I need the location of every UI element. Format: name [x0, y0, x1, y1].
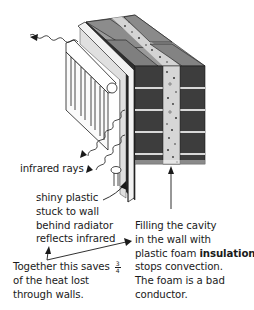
- shiny-line-2: stuck to wall: [36, 205, 115, 219]
- label-together-saves: Together this saves 34 of the heat lost …: [13, 260, 121, 301]
- cavity-line-2: in the wall with: [135, 233, 254, 247]
- cavity-line-3: plastic foam insulation: [135, 247, 254, 261]
- together-line-1-text: Together this saves: [13, 261, 113, 272]
- label-cavity-insulation: Filling the cavity in the wall with plas…: [135, 219, 254, 302]
- together-line-1: Together this saves 34: [13, 260, 121, 274]
- label-infrared-rays: infrared rays: [20, 162, 84, 176]
- together-line-3: through walls.: [13, 288, 121, 302]
- label-shiny-plastic: shiny plastic stuck to wall behind radia…: [36, 191, 115, 246]
- brick-wall-front: [135, 66, 205, 164]
- fraction-denominator: 4: [115, 268, 121, 274]
- foam-cavity: [163, 66, 180, 164]
- cavity-line-4: stops convection.: [135, 260, 254, 274]
- three-quarters-fraction: 34: [115, 261, 121, 274]
- cavity-line-6: conductor.: [135, 288, 254, 302]
- cavity-line-1: Filling the cavity: [135, 219, 254, 233]
- cavity-line-5: The foam is a bad: [135, 274, 254, 288]
- shiny-line-1: shiny plastic: [36, 191, 115, 205]
- shiny-line-3: behind radiator: [36, 219, 115, 233]
- insulation-keyword: insulation: [199, 248, 254, 259]
- shiny-line-4: reflects infrared: [36, 232, 115, 246]
- together-line-2: of the heat lost: [13, 274, 121, 288]
- cavity-line-3-text: plastic foam: [135, 248, 199, 259]
